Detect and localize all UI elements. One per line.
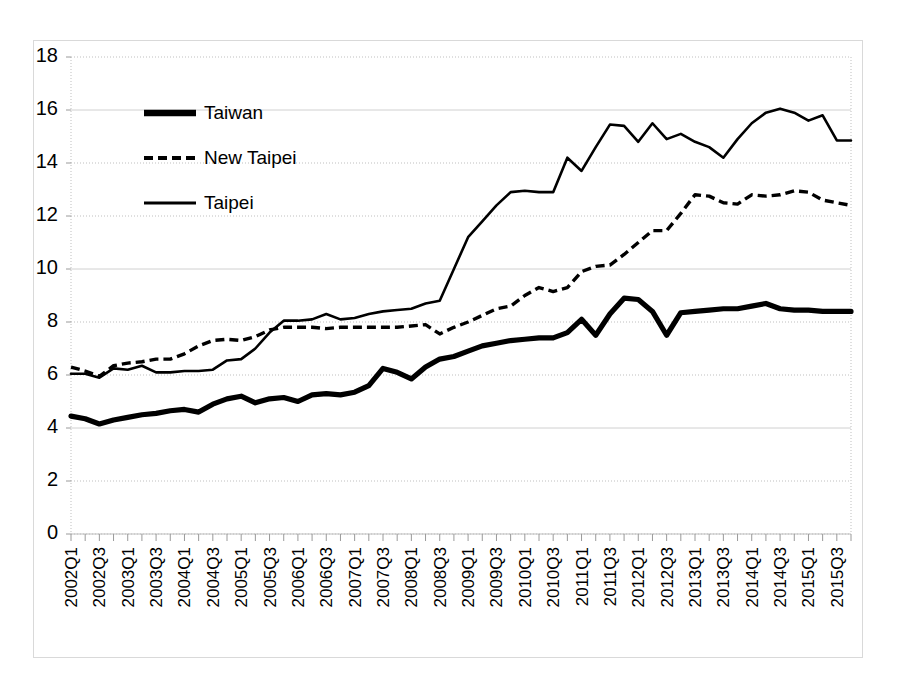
x-axis-tick-label: 2015Q3 xyxy=(828,547,847,608)
y-axis-tick-label: 16 xyxy=(36,97,58,119)
x-axis-tick-label: 2011Q3 xyxy=(601,547,620,606)
x-axis-tick-label: 2006Q3 xyxy=(317,547,336,608)
y-axis-tick-label: 10 xyxy=(36,256,58,278)
x-axis-tick-label: 2007Q3 xyxy=(374,547,393,608)
x-axis-labels-group: 2002Q12002Q32003Q12003Q32004Q12004Q32005… xyxy=(62,547,847,608)
x-axis-tick-label: 2012Q3 xyxy=(658,547,677,608)
x-axis-tick-label: 2005Q1 xyxy=(232,547,251,608)
y-axis-tick-label: 2 xyxy=(47,468,58,490)
legend-label-taiwan: Taiwan xyxy=(204,102,263,123)
x-axis-tick-label: 2009Q3 xyxy=(487,547,506,608)
x-axis-tick-label: 2008Q1 xyxy=(402,547,421,608)
series-line-taiwan xyxy=(71,298,851,424)
x-axis-tick-label: 2014Q3 xyxy=(771,547,790,608)
x-axis-tick-label: 2008Q3 xyxy=(431,547,450,608)
x-axis-tick-label: 2014Q1 xyxy=(743,547,762,608)
x-axis-tick-label: 2011Q1 xyxy=(573,547,592,606)
x-axis-tick-label: 2005Q3 xyxy=(261,547,280,608)
x-axis-tick-label: 2007Q1 xyxy=(346,547,365,608)
y-axis-tick-label: 6 xyxy=(47,362,58,384)
series-line-new-taipei xyxy=(71,191,851,377)
x-axis-tick-label: 2004Q1 xyxy=(175,547,194,608)
line-chart-plot: 024681012141618 2002Q12002Q32003Q12003Q3… xyxy=(0,0,900,692)
x-axis-tick-label: 2003Q1 xyxy=(119,547,138,608)
y-axis-tick-label: 0 xyxy=(47,521,58,543)
axis-tickmarks-group xyxy=(66,57,851,541)
x-axis-tick-label: 2003Q3 xyxy=(147,547,166,608)
chart-legend: TaiwanNew TaipeiTaipei xyxy=(144,102,297,213)
gridlines-group xyxy=(71,57,851,534)
y-axis-tick-label: 4 xyxy=(47,415,58,437)
series-line-taipei xyxy=(71,109,851,378)
y-axis-labels-group: 024681012141618 xyxy=(36,44,58,543)
x-axis-tick-label: 2002Q1 xyxy=(62,547,81,608)
x-axis-tick-label: 2010Q1 xyxy=(516,547,535,608)
chart-container: 024681012141618 2002Q12002Q32003Q12003Q3… xyxy=(0,0,900,692)
x-axis-tick-label: 2015Q1 xyxy=(799,547,818,608)
x-axis-tick-label: 2013Q1 xyxy=(686,547,705,608)
x-axis-tick-label: 2012Q1 xyxy=(629,547,648,608)
x-axis-tick-label: 2002Q3 xyxy=(90,547,109,608)
y-axis-tick-label: 18 xyxy=(36,44,58,66)
x-axis-tick-label: 2009Q1 xyxy=(459,547,478,608)
x-axis-tick-label: 2004Q3 xyxy=(204,547,223,608)
y-axis-tick-label: 14 xyxy=(36,150,58,172)
y-axis-tick-label: 8 xyxy=(47,309,58,331)
legend-label-new-taipei: New Taipei xyxy=(204,147,297,168)
x-axis-tick-label: 2010Q3 xyxy=(544,547,563,608)
legend-label-taipei: Taipei xyxy=(204,192,254,213)
x-axis-tick-label: 2006Q1 xyxy=(289,547,308,608)
x-axis-tick-label: 2013Q3 xyxy=(714,547,733,608)
y-axis-tick-label: 12 xyxy=(36,203,58,225)
